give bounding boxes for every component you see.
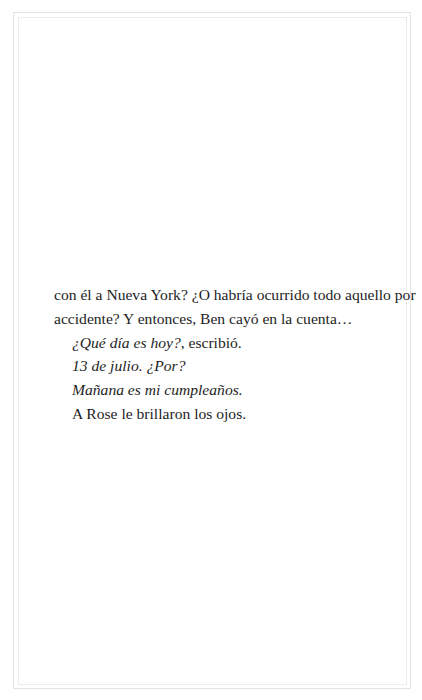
- text-line: accidente? Y entonces, Ben cayó en la cu…: [54, 307, 384, 331]
- text-segment: , escribió.: [181, 334, 242, 351]
- text-line: con él a Nueva York? ¿O habría ocurrido …: [54, 283, 384, 307]
- dialogue-line: Mañana es mi cumpleaños.: [54, 378, 384, 402]
- narrative-line: A Rose le brillaron los ojos.: [54, 402, 384, 426]
- italic-text-segment: ¿Qué día es hoy?: [72, 334, 181, 351]
- dialogue-line: 13 de julio. ¿Por?: [54, 354, 384, 378]
- book-page-text: con él a Nueva York? ¿O habría ocurrido …: [54, 283, 384, 426]
- italic-text-segment: 13 de julio. ¿Por?: [72, 357, 185, 374]
- dialogue-line: ¿Qué día es hoy?, escribió.: [54, 331, 384, 355]
- text-segment: A Rose le brillaron los ojos.: [72, 405, 246, 422]
- italic-text-segment: Mañana es mi cumpleaños.: [72, 381, 243, 398]
- text-segment: accidente? Y entonces, Ben cayó en la cu…: [54, 310, 352, 327]
- text-segment: con él a Nueva York? ¿O habría ocurrido …: [54, 286, 416, 303]
